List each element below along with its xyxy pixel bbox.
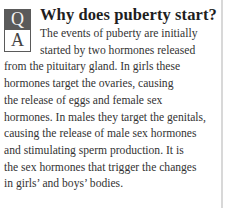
answer-line: started by two hormones released (4, 43, 220, 60)
answer-line: from the pituitary gland. In girls these (4, 59, 220, 76)
answer-line: causing the release of male sex hormones (4, 126, 220, 143)
answer-line: The events of puberty are initially (4, 26, 220, 43)
answer-line: and stimulating sperm production. It is (4, 143, 220, 160)
answer-line: the sex hormones that trigger the change… (4, 160, 220, 177)
answer-line: the release of eggs and female sex (4, 93, 220, 110)
question-title: Why does puberty start? (40, 5, 217, 25)
column-divider (221, 0, 223, 208)
answer-text: The events of puberty are initially star… (4, 26, 220, 193)
answer-line: hormones target the ovaries, causing (4, 76, 220, 93)
answer-line: hormones. In males they target the genit… (4, 110, 220, 127)
answer-line: in girls’ and boys’ bodies. (4, 176, 220, 193)
